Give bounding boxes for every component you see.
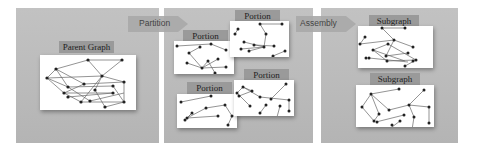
portion-network-3	[177, 94, 237, 128]
portion-card-2	[230, 21, 289, 57]
portion-card-3	[177, 94, 237, 128]
subgraph-network-2	[356, 85, 434, 127]
portion-card-1	[174, 41, 234, 74]
portion-card-4	[234, 80, 294, 116]
portion-network-4	[234, 80, 294, 116]
assembly-arrow-label: Assembly	[300, 18, 337, 28]
subgraph-card-2	[356, 85, 434, 127]
portion-label-3: Portion	[187, 82, 232, 94]
subgraph-network-1	[358, 26, 433, 68]
portion-network-2	[230, 21, 289, 57]
partition-arrow-label: Partition	[139, 18, 170, 28]
parent-graph-label: Parent Graph	[59, 41, 114, 53]
portion-network-1	[174, 41, 234, 74]
subgraph-label-2: Subgraph	[370, 73, 420, 85]
parent-graph-network	[40, 55, 136, 110]
subgraph-card-1	[358, 26, 433, 68]
parent-graph-card	[40, 55, 136, 110]
